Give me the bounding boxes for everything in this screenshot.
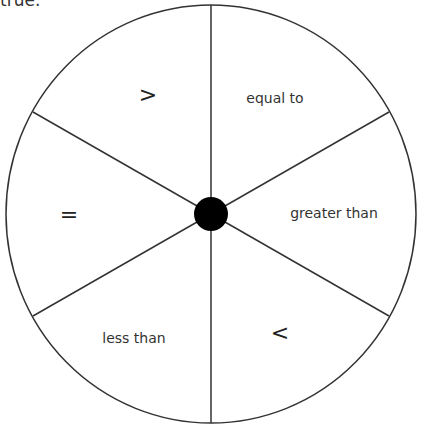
section-label-greater-than: greater than [290, 205, 378, 221]
section-label-less-than: less than [102, 330, 165, 346]
section-label-equal-to: equal to [246, 90, 303, 106]
section-label-less-symbol: < [271, 320, 289, 345]
section-label-greater-symbol: > [139, 82, 157, 107]
spinner-hub [194, 197, 228, 231]
section-label-equal-symbol: = [60, 202, 78, 227]
